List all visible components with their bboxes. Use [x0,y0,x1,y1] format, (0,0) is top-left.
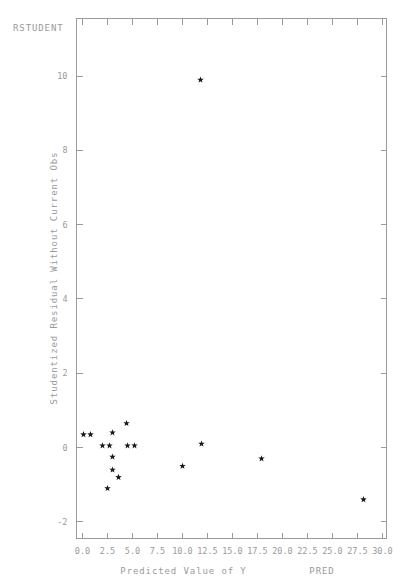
x-tick-label: 12.5 [197,546,217,556]
x-tick-label: 5.0 [125,546,140,556]
data-point-marker [198,440,204,446]
data-point-marker [197,76,203,82]
data-point-marker [109,466,115,472]
x-tick-label: 15.0 [222,546,242,556]
y-axis-corner-label: RSTUDENT [13,23,64,33]
data-point-marker [131,442,137,448]
x-tick-label: 20.0 [272,546,292,556]
y-axis-title: Studentized Residual Without Current Obs [49,152,59,405]
y-tick-label: 2 [62,368,67,378]
data-point-marker [109,429,115,435]
data-point-marker [80,431,86,437]
data-point-marker [360,496,366,502]
data-point-marker [258,455,264,461]
data-point-marker [109,453,115,459]
x-tick-label: 25.0 [322,546,342,556]
x-axis-series-label: PRED [309,566,334,576]
x-tick-label: 7.5 [150,546,165,556]
x-tick-label: 22.5 [297,546,317,556]
y-tick-label: 0 [62,443,67,453]
x-axis-title: Predicted Value of Y [120,566,246,576]
data-point-marker [104,485,110,491]
x-tick-label: 17.5 [247,546,267,556]
y-tick-label: 6 [62,220,67,230]
data-point-marker [115,474,121,480]
data-point-marker [99,442,105,448]
data-point-marker [123,420,129,426]
y-tick-label: -2 [57,517,67,527]
data-point-marker [124,442,130,448]
data-point-marker [87,431,93,437]
data-point-marker [179,463,185,469]
x-tick-label: 30.0 [372,546,392,556]
chart-canvas: 0.02.55.07.510.012.515.017.520.022.525.0… [0,0,403,588]
x-tick-label: 2.5 [100,546,115,556]
x-tick-label: 0.0 [75,546,90,556]
y-tick-label: 4 [62,294,67,304]
y-tick-label: 10 [57,71,67,81]
x-tick-label: 27.5 [347,546,367,556]
y-tick-label: 8 [62,145,67,155]
scatter-plot-figure: 0.02.55.07.510.012.515.017.520.022.525.0… [0,0,403,588]
x-tick-label: 10.0 [172,546,192,556]
data-point-marker [106,442,112,448]
plot-frame [77,19,387,539]
